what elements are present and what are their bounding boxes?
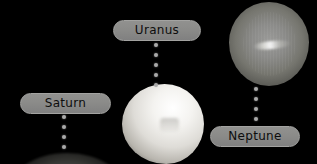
label-pill-uranus[interactable]: Uranus [113,20,201,41]
planet-neptune-image [229,2,309,86]
connector-dot [154,83,158,87]
connector-uranus [154,43,158,93]
planet-saturn-image [6,153,128,164]
solar-system-diagram: Uranus Saturn Neptune [0,0,317,164]
label-pill-neptune[interactable]: Neptune [210,126,300,147]
planet-uranus-image [122,84,204,164]
connector-dot [254,97,258,101]
connector-dot [254,117,258,121]
label-pill-saturn[interactable]: Saturn [20,93,111,114]
connector-dot [154,53,158,57]
connector-dot [254,87,258,91]
connector-dot [62,125,66,129]
label-text-neptune: Neptune [228,129,281,143]
connector-dot [154,73,158,77]
connector-dot [154,63,158,67]
connector-neptune [254,87,258,127]
connector-saturn [62,115,66,155]
connector-dot [62,135,66,139]
connector-dot [62,115,66,119]
label-text-uranus: Uranus [135,23,179,37]
connector-dot [62,145,66,149]
label-text-saturn: Saturn [45,96,86,110]
connector-dot [254,107,258,111]
connector-dot [154,43,158,47]
